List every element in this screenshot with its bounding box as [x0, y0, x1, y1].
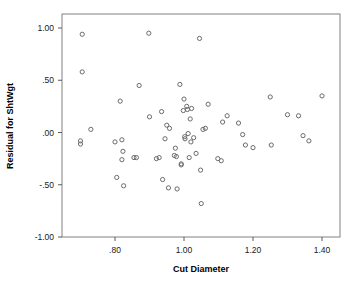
data-point	[269, 143, 273, 147]
plot-border	[62, 14, 340, 237]
data-point-markers	[78, 31, 324, 206]
x-axis-title: Cut Diameter	[173, 264, 230, 274]
data-point	[301, 134, 305, 138]
data-point	[115, 175, 119, 179]
y-axis-tick-labels: 1.00.50.00-.50-1.00	[35, 23, 55, 242]
data-point	[173, 146, 177, 150]
data-point	[221, 120, 225, 124]
data-point	[122, 184, 126, 188]
y-axis-title: Residual for ShtWgt	[5, 83, 15, 169]
data-point	[189, 106, 193, 110]
data-point	[236, 121, 240, 125]
data-point	[296, 114, 300, 118]
data-point	[175, 187, 179, 191]
data-point	[206, 102, 210, 106]
x-tick-label: .80	[109, 245, 121, 255]
plot-canvas: .801.001.201.40 1.00.50.00-.50-1.00 Cut …	[0, 0, 359, 286]
y-tick-label: -.50	[39, 180, 54, 190]
data-point	[188, 117, 192, 121]
data-point	[120, 138, 124, 142]
data-point	[320, 94, 324, 98]
data-point	[194, 151, 198, 155]
plot-frame	[62, 14, 340, 237]
data-point	[268, 95, 272, 99]
data-point	[241, 132, 245, 136]
data-point	[147, 115, 151, 119]
data-point	[166, 186, 170, 190]
data-point	[307, 139, 311, 143]
y-tick-label: 1.00	[37, 23, 54, 33]
data-point	[192, 136, 196, 140]
data-point	[225, 114, 229, 118]
x-axis-tick-labels: .801.001.201.40	[109, 245, 330, 255]
data-point	[113, 140, 117, 144]
y-tick-label: .00	[42, 128, 54, 138]
data-point	[147, 31, 151, 35]
y-tick-label: -1.00	[35, 232, 55, 242]
data-point	[219, 159, 223, 163]
data-point	[189, 140, 193, 144]
data-point	[178, 82, 182, 86]
data-point	[199, 201, 203, 205]
y-tick-label: .50	[42, 75, 54, 85]
data-point	[181, 108, 185, 112]
data-point	[80, 32, 84, 36]
scatter-plot-figure: .801.001.201.40 1.00.50.00-.50-1.00 Cut …	[0, 0, 359, 286]
data-point	[118, 99, 122, 103]
data-point	[186, 131, 190, 135]
data-point	[161, 177, 165, 181]
x-tick-label: 1.40	[314, 245, 331, 255]
data-point	[187, 155, 191, 159]
data-point	[243, 143, 247, 147]
data-point	[80, 70, 84, 74]
x-tick-label: 1.00	[176, 245, 193, 255]
data-point	[89, 127, 93, 131]
data-point	[137, 83, 141, 87]
data-point	[163, 137, 167, 141]
data-point	[251, 146, 255, 150]
data-point	[159, 110, 163, 114]
x-tick-label: 1.20	[245, 245, 262, 255]
data-point	[120, 158, 124, 162]
data-point	[285, 113, 289, 117]
data-point	[198, 168, 202, 172]
data-point	[182, 97, 186, 101]
data-point	[197, 36, 201, 40]
data-point	[167, 126, 171, 130]
data-point	[121, 149, 125, 153]
